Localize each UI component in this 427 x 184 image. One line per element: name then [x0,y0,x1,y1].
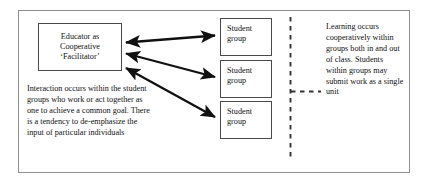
student-group-box-1: Student group [220,18,272,56]
educator-box-line-2: Cooperative [60,42,100,52]
educator-box-line-3: ‘Facilitator’ [60,52,99,62]
student-group-box-2-line-2: group [227,76,271,86]
cooperative-learning-diagram: Educator as Cooperative ‘Facilitator’ St… [0,0,427,184]
student-group-box-3: Student group [220,101,272,139]
student-group-box-3-line-1: Student [227,107,271,117]
student-group-box-1-line-1: Student [227,24,271,34]
right-description-note: Learning occurs cooperatively within gro… [326,22,404,98]
student-group-box-1-line-2: group [227,34,271,44]
educator-box: Educator as Cooperative ‘Facilitator’ [38,23,122,71]
educator-box-line-1: Educator as [61,32,99,42]
student-group-box-2: Student group [220,60,272,98]
student-group-box-2-line-1: Student [227,66,271,76]
student-group-box-3-line-2: group [227,117,271,127]
left-description-note: Interaction occurs within the student gr… [27,84,152,139]
